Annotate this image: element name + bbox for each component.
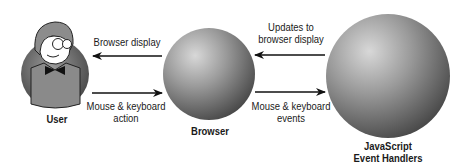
edge-label-line1: Mouse & keyboard — [83, 101, 169, 113]
edge-label-mouse-keyboard-events: Mouse & keyboard events — [248, 101, 334, 124]
js-sphere-icon — [326, 14, 450, 138]
js-label-line1: JavaScript — [345, 141, 431, 153]
user-avatar-icon — [21, 22, 89, 108]
js-label-line2: Event Handlers — [345, 153, 431, 164]
edge-label-line2: action — [83, 113, 169, 125]
browser-sphere-icon — [163, 28, 255, 120]
edge-label-line2: browser display — [248, 34, 334, 46]
edge-label-line1: Updates to — [248, 22, 334, 34]
js-label: JavaScript Event Handlers — [345, 141, 431, 163]
edge-label-line2: events — [248, 113, 334, 125]
edge-label-mouse-keyboard-action: Mouse & keyboard action — [83, 101, 169, 124]
user-label: User — [31, 114, 83, 126]
diagram-canvas — [0, 0, 472, 163]
edge-label-line1: Mouse & keyboard — [248, 101, 334, 113]
browser-label: Browser — [184, 126, 236, 138]
edge-label-browser-display: Browser display — [88, 37, 165, 49]
edge-label-updates-browser-display: Updates to browser display — [248, 22, 334, 45]
